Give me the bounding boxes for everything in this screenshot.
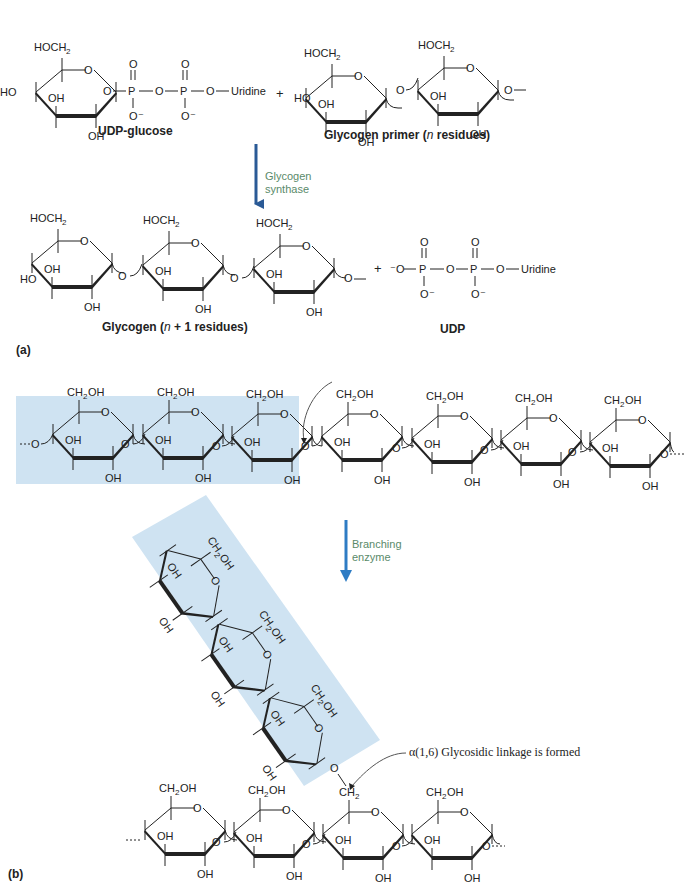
- plus-sign-1: +: [276, 86, 284, 101]
- svg-text:CH: CH: [604, 394, 620, 406]
- svg-text:CH: CH: [67, 386, 83, 398]
- svg-text:OH: OH: [536, 392, 553, 404]
- svg-text:HO: HO: [0, 86, 17, 98]
- panel-a-diagram: HOCH2 HO O P O O⁻ O P O O⁻ O Uridine + H…: [0, 0, 696, 340]
- svg-text:2: 2: [66, 47, 71, 56]
- svg-text:HOCH: HOCH: [34, 41, 66, 53]
- svg-text:O: O: [344, 272, 353, 284]
- svg-text:O⁻: O⁻: [129, 110, 144, 122]
- svg-text:2: 2: [450, 45, 455, 54]
- svg-text:O: O: [496, 263, 505, 275]
- svg-text:P: P: [180, 85, 187, 97]
- svg-text:2: 2: [288, 223, 293, 232]
- svg-text:O: O: [420, 236, 429, 248]
- svg-text:O: O: [482, 840, 491, 852]
- svg-text:P: P: [419, 263, 426, 275]
- svg-text:CH: CH: [426, 390, 442, 402]
- svg-text:2: 2: [175, 220, 180, 229]
- udp-label: UDP: [440, 322, 465, 336]
- product-ring-3: HOCH2: [253, 217, 335, 318]
- primer-ring-2: HOCH2: [417, 39, 499, 140]
- svg-text:HOCH: HOCH: [418, 39, 450, 51]
- product-ring-1: HOCH2 HO: [20, 212, 113, 313]
- svg-text:O: O: [181, 58, 190, 70]
- glycogen-product-label: Glycogen (n + 1 residues): [102, 320, 248, 334]
- svg-text:O⁻: O⁻: [471, 288, 486, 300]
- svg-text:O: O: [396, 84, 405, 96]
- product-ring-2: HOCH2: [142, 214, 224, 315]
- svg-text:HOCH: HOCH: [30, 212, 62, 224]
- highlight-box-branch: [132, 495, 380, 786]
- udp-molecule: ⁻O P O O⁻ O P O O⁻ O Uridine: [390, 236, 556, 300]
- panel-b-diagram: O CH2OH O CH2OH O CH2OH O CH2OH O CH2OH …: [0, 340, 696, 893]
- svg-text:O: O: [504, 84, 513, 96]
- svg-text:O: O: [301, 440, 310, 452]
- svg-text:O: O: [660, 448, 669, 460]
- glycogen-primer-label: Glycogen primer (n residues): [324, 128, 490, 142]
- glycogen-synthase-label: Glycogen synthase: [265, 170, 311, 196]
- svg-text:O: O: [392, 442, 401, 454]
- svg-text:CH: CH: [426, 786, 442, 798]
- svg-text:O: O: [103, 85, 112, 97]
- panel-b-label: (b): [8, 867, 23, 881]
- svg-text:OH: OH: [180, 782, 197, 794]
- svg-text:CH: CH: [515, 392, 531, 404]
- svg-text:2: 2: [336, 53, 341, 62]
- svg-text:OH: OH: [267, 388, 284, 400]
- svg-text:OH: OH: [269, 784, 286, 796]
- svg-text:CH: CH: [159, 782, 175, 794]
- udp-chain: O P O O⁻ O P O O⁻ O Uridine: [103, 58, 266, 122]
- svg-text:OH: OH: [447, 786, 464, 798]
- svg-text:HOCH: HOCH: [143, 214, 175, 226]
- udp-glucose-label: UDP-glucose: [98, 124, 173, 138]
- svg-text:OH: OH: [178, 386, 195, 398]
- svg-text:OH: OH: [88, 386, 105, 398]
- alpha-linkage-annotation: α(1,6) Glycosidic linkage is formed: [409, 745, 580, 760]
- svg-text:O: O: [206, 85, 215, 97]
- svg-text:HOCH: HOCH: [256, 217, 288, 229]
- svg-text:HO: HO: [294, 92, 311, 104]
- svg-text:CH: CH: [157, 386, 173, 398]
- svg-text:OH: OH: [357, 388, 374, 400]
- svg-text:O: O: [212, 440, 221, 452]
- svg-text:CH: CH: [339, 786, 355, 798]
- linkage-pointer-icon: [352, 753, 406, 786]
- svg-text:O: O: [212, 836, 221, 848]
- svg-text:O: O: [568, 446, 577, 458]
- svg-text:OH: OH: [447, 390, 464, 402]
- branching-enzyme-label: Branching enzyme: [352, 538, 402, 564]
- svg-text:O: O: [302, 838, 311, 850]
- svg-text:Uridine: Uridine: [521, 263, 556, 275]
- svg-text:OH: OH: [625, 394, 642, 406]
- svg-text:O: O: [446, 263, 455, 275]
- svg-text:CH: CH: [336, 388, 352, 400]
- svg-text:O⁻: O⁻: [181, 110, 196, 122]
- svg-text:O: O: [129, 58, 138, 70]
- svg-text:CH: CH: [246, 388, 262, 400]
- svg-text:HOCH: HOCH: [304, 47, 336, 59]
- svg-text:P: P: [470, 263, 477, 275]
- svg-text:O: O: [230, 272, 239, 284]
- svg-text:O: O: [31, 438, 40, 450]
- svg-text:2: 2: [62, 218, 67, 227]
- svg-text:CH: CH: [248, 784, 264, 796]
- svg-text:HO: HO: [20, 273, 37, 285]
- svg-text:Uridine: Uridine: [231, 85, 266, 97]
- svg-text:O: O: [480, 444, 489, 456]
- plus-sign-2: +: [374, 261, 382, 276]
- svg-text:O: O: [392, 840, 401, 852]
- svg-text:O: O: [471, 236, 480, 248]
- svg-text:O: O: [121, 438, 130, 450]
- svg-text:O⁻: O⁻: [420, 288, 435, 300]
- svg-text:O: O: [118, 270, 127, 282]
- svg-text:O: O: [330, 762, 339, 774]
- svg-text:P: P: [128, 85, 135, 97]
- svg-text:⁻O: ⁻O: [390, 263, 405, 275]
- svg-text:O: O: [155, 85, 164, 97]
- svg-text:2: 2: [355, 792, 360, 801]
